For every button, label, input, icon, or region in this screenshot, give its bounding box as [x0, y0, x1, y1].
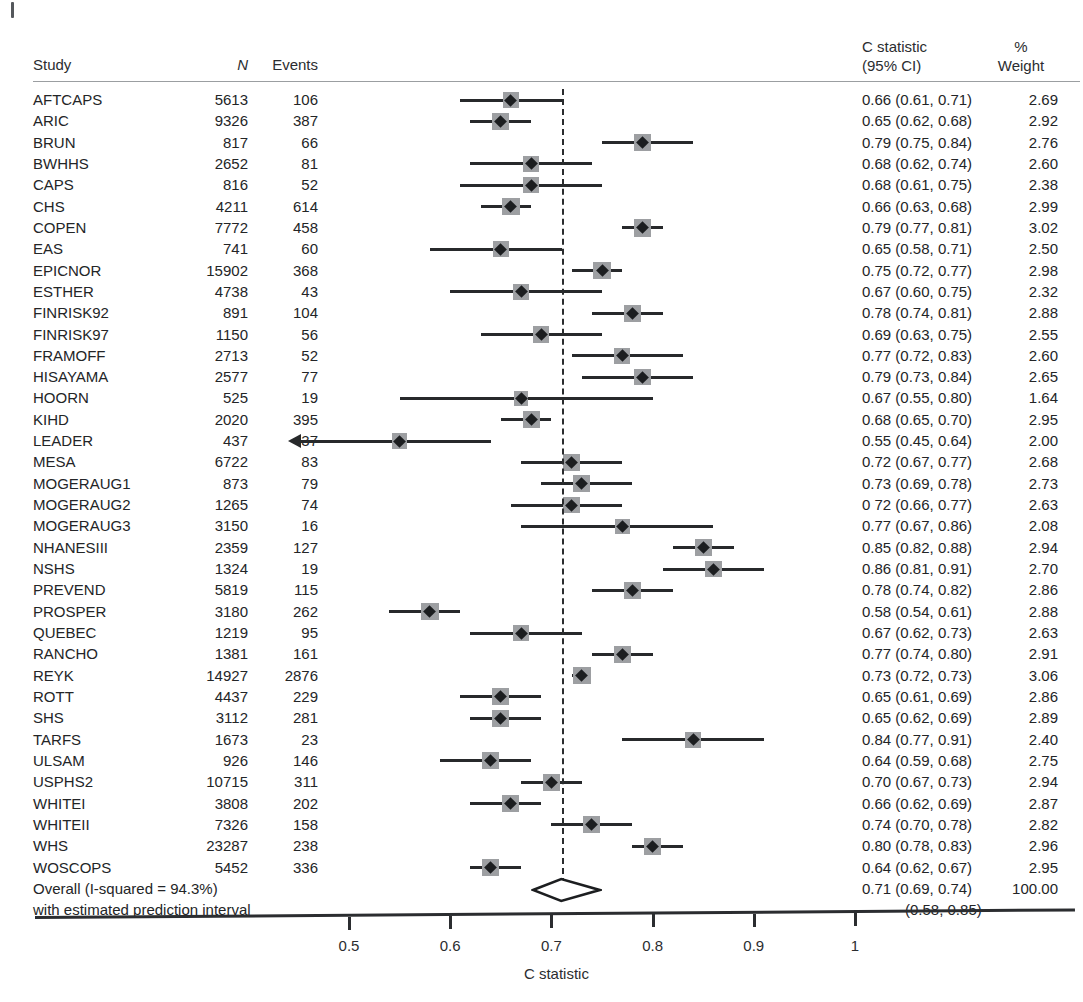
table-cell-ci: 0.67 (0.60, 0.75) [862, 284, 972, 300]
study-weight-box [624, 582, 641, 599]
table-cell-study: AFTCAPS [33, 92, 102, 108]
table-cell-study: CHS [33, 199, 65, 215]
confidence-interval-line [602, 141, 693, 144]
table-cell-weight: 2.94 [984, 540, 1058, 556]
study-weight-box [583, 816, 600, 833]
study-weight-box [421, 603, 438, 620]
table-cell-study: WOSCOPS [33, 860, 111, 876]
table-cell-ci: 0.86 (0.81, 0.91) [862, 561, 972, 577]
table-cell-weight: 3.06 [984, 668, 1058, 684]
table-cell-n: 6722 [138, 454, 248, 470]
table-cell-ci: 0.64 (0.59, 0.68) [862, 753, 972, 769]
confidence-interval-line [673, 546, 734, 549]
table-cell-ci: 0.65 (0.62, 0.68) [862, 113, 972, 129]
table-cell-n: 4738 [138, 284, 248, 300]
table-cell-events: 52 [246, 348, 318, 364]
table-cell-weight: 2.91 [984, 646, 1058, 662]
table-cell-events: 311 [246, 774, 318, 790]
confidence-interval-line [572, 269, 623, 272]
table-cell-ci: 0.73 (0.69, 0.78) [862, 476, 972, 492]
table-cell-n: 5452 [138, 860, 248, 876]
table-cell-ci: 0.69 (0.63, 0.75) [862, 327, 972, 343]
x-axis-tick [854, 913, 857, 926]
point-estimate-marker [575, 477, 588, 490]
confidence-interval-line [470, 717, 541, 720]
table-cell-weight: 2.95 [984, 860, 1058, 876]
study-weight-box [614, 646, 631, 663]
table-cell-events: 281 [246, 710, 318, 726]
table-cell-n: 1673 [138, 732, 248, 748]
study-weight-box [593, 262, 610, 279]
table-cell-n: 7772 [138, 220, 248, 236]
x-axis-tick-label: 0.9 [724, 937, 784, 954]
study-weight-box [615, 519, 630, 534]
table-cell-n: 3180 [138, 604, 248, 620]
table-cell-events: 262 [246, 604, 318, 620]
table-cell-ci: 0.79 (0.75, 0.84) [862, 135, 972, 151]
study-weight-box [502, 795, 519, 812]
study-weight-box [514, 391, 528, 405]
overall-weight-value: 100.00 [984, 881, 1058, 897]
study-weight-box [634, 219, 651, 236]
table-cell-weight: 3.02 [984, 220, 1058, 236]
table-cell-n: 1324 [138, 561, 248, 577]
table-cell-study: PREVEND [33, 582, 106, 598]
table-cell-weight: 2.87 [984, 796, 1058, 812]
table-cell-n: 437 [138, 433, 248, 449]
point-estimate-marker [565, 456, 578, 469]
table-cell-n: 816 [138, 177, 248, 193]
table-cell-weight: 2.70 [984, 561, 1058, 577]
table-cell-n: 525 [138, 390, 248, 406]
table-cell-events: 614 [246, 199, 318, 215]
table-cell-study: RANCHO [33, 646, 98, 662]
study-weight-box [543, 774, 560, 791]
point-estimate-marker [484, 861, 497, 874]
point-estimate-marker [505, 94, 518, 107]
confidence-interval-line [582, 376, 693, 379]
table-cell-ci: 0 72 (0.66, 0.77) [862, 497, 972, 513]
study-weight-box [573, 475, 590, 492]
table-cell-weight: 1.64 [984, 390, 1058, 406]
table-cell-n: 2652 [138, 156, 248, 172]
confidence-interval-line [501, 418, 552, 421]
study-weight-box [523, 177, 539, 193]
table-cell-ci: 0.78 (0.74, 0.81) [862, 305, 972, 321]
table-cell-ci: 0.66 (0.63, 0.68) [862, 199, 972, 215]
study-weight-box [503, 92, 520, 109]
table-cell-n: 2020 [138, 412, 248, 428]
table-cell-study: FINRISK97 [33, 327, 109, 343]
table-cell-study: WHITEI [33, 796, 86, 812]
x-axis-tick [449, 916, 452, 929]
table-cell-n: 1381 [138, 646, 248, 662]
study-weight-box [523, 411, 540, 428]
table-cell-events: 395 [246, 412, 318, 428]
table-cell-ci: 0.68 (0.65, 0.70) [862, 412, 972, 428]
confidence-interval-line [460, 184, 602, 187]
point-estimate-marker [616, 349, 629, 362]
point-estimate-marker [636, 136, 649, 149]
table-cell-ci: 0.79 (0.77, 0.81) [862, 220, 972, 236]
confidence-interval-line [450, 290, 602, 293]
table-cell-study: ESTHER [33, 284, 94, 300]
table-cell-events: 146 [246, 753, 318, 769]
study-weight-box [573, 667, 591, 685]
table-cell-n: 2577 [138, 369, 248, 385]
table-cell-events: 43 [246, 284, 318, 300]
confidence-interval-line [592, 653, 653, 656]
confidence-interval-line [440, 759, 531, 762]
study-weight-box [563, 497, 580, 514]
confidence-interval-line [511, 504, 622, 507]
table-cell-ci: 0.74 (0.70, 0.78) [862, 817, 972, 833]
table-cell-n: 2713 [138, 348, 248, 364]
point-estimate-marker [626, 584, 639, 597]
table-cell-events: 458 [246, 220, 318, 236]
table-cell-events: 202 [246, 796, 318, 812]
table-cell-ci: 0.77 (0.67, 0.86) [862, 518, 972, 534]
confidence-interval-line [470, 802, 541, 805]
point-estimate-marker [525, 158, 538, 171]
point-estimate-marker [505, 200, 518, 213]
confidence-interval-line [592, 589, 673, 592]
x-axis-tick-label: 0.6 [420, 937, 480, 954]
column-header-cstatistic: C statistic [862, 38, 927, 55]
table-cell-ci: 0.79 (0.73, 0.84) [862, 369, 972, 385]
